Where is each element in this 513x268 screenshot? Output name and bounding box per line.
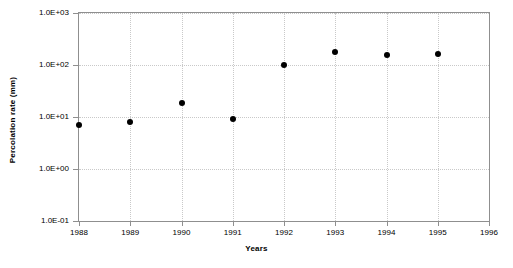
data-point xyxy=(384,52,390,58)
y-axis-label: 1.0E+01 xyxy=(9,112,69,122)
chart-container: Percolation rate (mm) 1.0E-011.0E+001.0E… xyxy=(0,0,513,268)
x-axis-tick xyxy=(489,221,490,226)
data-point xyxy=(179,100,185,106)
y-axis-tick xyxy=(73,169,79,170)
x-axis-label: 1993 xyxy=(310,228,360,238)
data-point xyxy=(230,116,236,122)
x-axis-tick xyxy=(79,221,80,226)
x-axis-label: 1994 xyxy=(362,228,412,238)
y-axis-tick xyxy=(73,117,79,118)
x-axis-tick xyxy=(438,221,439,226)
plot-area: 1.0E-011.0E+001.0E+011.0E+021.0E+0319881… xyxy=(78,12,490,222)
x-axis-label: 1996 xyxy=(464,228,513,238)
x-gridline xyxy=(130,13,131,221)
data-point xyxy=(76,122,82,128)
y-axis-label: 1.0E-01 xyxy=(9,216,69,226)
x-gridline xyxy=(182,13,183,221)
y-axis-tick xyxy=(73,13,79,14)
x-axis-label: 1988 xyxy=(54,228,104,238)
x-gridline xyxy=(284,13,285,221)
x-axis-title: Years xyxy=(0,244,513,253)
data-point xyxy=(332,49,338,55)
x-axis-label: 1992 xyxy=(259,228,309,238)
x-axis-tick xyxy=(284,221,285,226)
data-point xyxy=(127,119,133,125)
x-axis-label: 1990 xyxy=(157,228,207,238)
y-axis-label: 1.0E+03 xyxy=(9,8,69,18)
y-axis-label: 1.0E+02 xyxy=(9,60,69,70)
y-axis-label: 1.0E+00 xyxy=(9,164,69,174)
x-gridline xyxy=(387,13,388,221)
x-axis-tick xyxy=(182,221,183,226)
x-gridline xyxy=(335,13,336,221)
x-axis-tick xyxy=(130,221,131,226)
data-point xyxy=(435,51,441,57)
x-axis-label: 1991 xyxy=(208,228,258,238)
x-axis-tick xyxy=(233,221,234,226)
x-gridline xyxy=(438,13,439,221)
data-point xyxy=(281,62,287,68)
x-axis-label: 1989 xyxy=(105,228,155,238)
x-axis-tick xyxy=(335,221,336,226)
x-axis-label: 1995 xyxy=(413,228,463,238)
x-axis-tick xyxy=(387,221,388,226)
y-axis-tick xyxy=(73,65,79,66)
